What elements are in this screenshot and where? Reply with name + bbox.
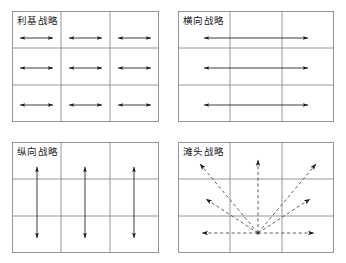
arrow-upright <box>258 164 316 233</box>
panel-horizontal-strategy: 横向战略 <box>178 11 334 122</box>
origin-point <box>256 231 259 234</box>
panel-niche-strategy-svg <box>12 11 159 122</box>
grid-lines <box>178 142 333 252</box>
panel-beachhead-strategy: 滩头战略 <box>178 142 334 253</box>
arrow-group <box>37 167 134 238</box>
radial-arrow-group <box>200 160 316 233</box>
panel-niche-strategy: 利基战略 <box>12 11 159 122</box>
panel-beachhead-strategy-svg <box>178 142 334 253</box>
strategy-matrix-figure: 利基战略 <box>0 0 346 263</box>
panel-vertical-strategy-svg <box>12 142 159 253</box>
arrow-upleft <box>200 164 258 233</box>
panel-horizontal-strategy-svg <box>178 11 334 122</box>
grid-lines <box>12 142 158 252</box>
panel-vertical-strategy: 纵向战略 <box>12 142 159 253</box>
